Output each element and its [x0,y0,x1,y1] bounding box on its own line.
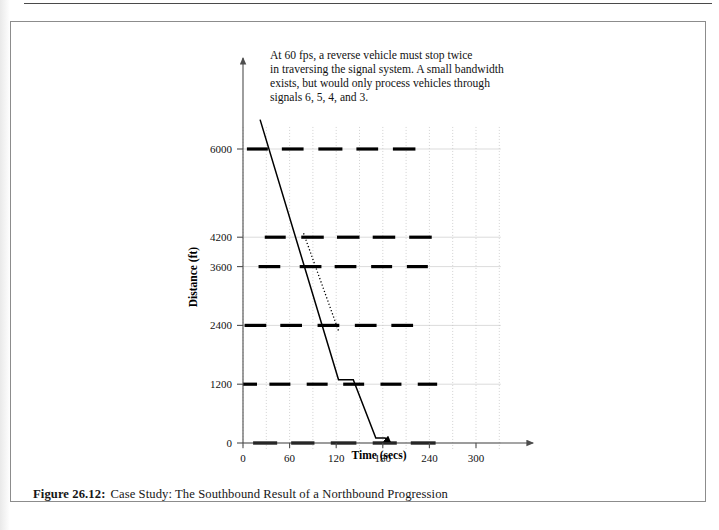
y-tick-label: 2400 [210,319,233,331]
figure-caption-text: Case Study: The Southbound Result of a N… [110,487,448,501]
figure-caption-label: Figure 26.12: [33,487,105,501]
axis-ticks [237,149,476,448]
vertical-gridlines [243,127,499,449]
signal-green-bands [243,149,437,443]
header-rule [24,3,712,4]
annotation-line-1: At 60 fps, a reverse vehicle must stop t… [270,49,473,62]
annotation-line-3: exists, but would only process vehicles … [270,77,490,90]
trajectory-lines [260,120,390,443]
x-tick-label: 240 [421,452,438,462]
y-tick-label: 6000 [210,143,233,155]
y-axis-tick-labels: 012002400360042006000 [210,143,233,449]
y-tick-label: 3600 [210,261,233,273]
chart-annotation: At 60 fps, a reverse vehicle must stop t… [270,49,504,104]
time-space-diagram: 060120180240300 012002400360042006000 Ti… [11,22,707,462]
annotation-line-2: in traversing the signal system. A small… [270,63,504,76]
x-tick-label: 60 [284,452,296,462]
reverse-vehicle-trajectory [260,120,390,443]
y-tick-label: 0 [227,437,233,449]
y-tick-label: 4200 [210,231,233,243]
figure-box: 060120180240300 012002400360042006000 Ti… [10,21,706,502]
page-edge-shading [0,0,10,530]
y-axis-title: Distance (ft) [187,247,200,308]
annotation-line-4: signals 6, 5, 4, and 3. [270,91,368,104]
x-tick-label: 120 [328,452,345,462]
figure-caption: Figure 26.12:Case Study: The Southbound … [33,487,448,502]
x-tick-label: 300 [468,452,485,462]
y-tick-label: 1200 [210,378,233,390]
x-tick-label: 0 [240,452,246,462]
chart-area: 060120180240300 012002400360042006000 Ti… [11,22,707,462]
x-axis-title: Time (secs) [351,449,406,462]
page: 060120180240300 012002400360042006000 Ti… [0,0,719,530]
